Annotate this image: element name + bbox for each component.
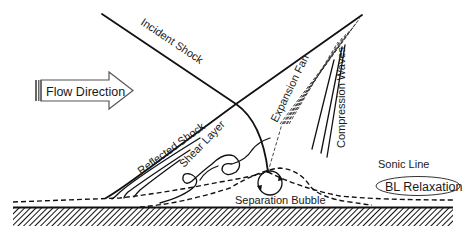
flow-direction-label: Flow Direction <box>46 85 125 99</box>
bl-relaxation-label: BL Relaxation <box>385 180 462 194</box>
recirculation-arrow-icon <box>257 185 262 191</box>
compression-waves: Compression Waves <box>312 45 347 157</box>
separation-bubble: Separation Bubble <box>140 168 372 207</box>
wall-hatching <box>13 208 453 226</box>
incident-shock-label: Incident Shock <box>139 16 206 66</box>
recirculation-circle <box>258 171 282 195</box>
sonic-line-label: Sonic Line <box>378 158 429 170</box>
compression-waves-label: Compression Waves <box>335 46 347 148</box>
separation-bubble-label: Separation Bubble <box>235 194 326 206</box>
flow-direction-arrow: Flow Direction <box>35 72 133 109</box>
reflected-shock-foot-1 <box>112 138 200 199</box>
sbli-diagram: Flow Direction Incident Shock Reflected … <box>0 0 468 244</box>
arrow-stripe <box>38 80 40 101</box>
recirculation-arrow-icon <box>278 175 283 181</box>
bl-relaxation: BL Relaxation <box>376 177 462 196</box>
arrow-stripe <box>35 80 37 101</box>
wall <box>13 208 453 227</box>
